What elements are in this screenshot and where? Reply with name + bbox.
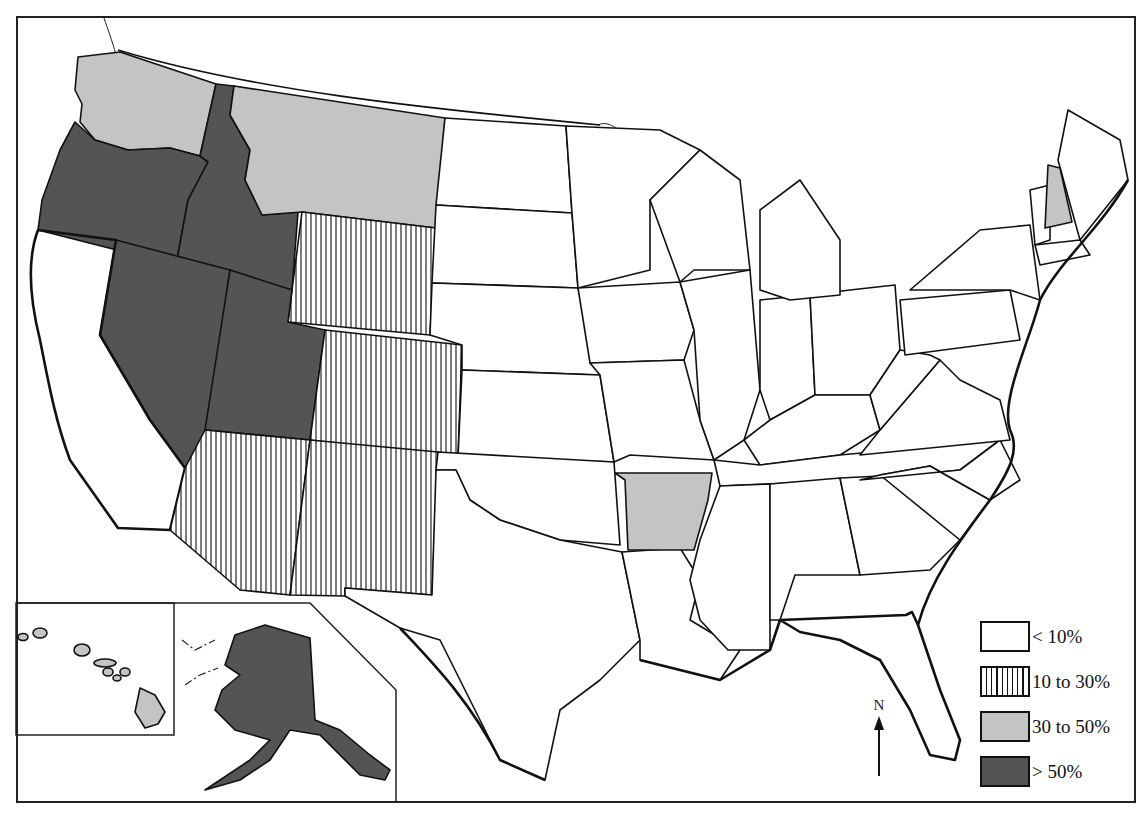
legend-item-gt50: > 50%: [980, 749, 1140, 794]
state-hawaii: [18, 628, 165, 728]
state-kansas: [458, 370, 614, 462]
state-arkansas: [615, 473, 712, 550]
north-label: N: [868, 697, 890, 714]
state-montana: [230, 86, 445, 228]
legend-item-10to30: 10 to 30%: [980, 659, 1140, 704]
legend-swatch-white: [980, 621, 1030, 652]
legend-label: 30 to 50%: [1032, 716, 1110, 738]
state-iowa: [578, 282, 694, 363]
north-arrow-icon: [868, 714, 890, 779]
legend-item-lt10: < 10%: [980, 614, 1140, 659]
state-michigan: [760, 180, 840, 300]
legend-label: 10 to 30%: [1032, 671, 1110, 693]
state-new-york: [910, 225, 1040, 300]
state-alaska: [205, 625, 390, 790]
state-south-dakota: [432, 205, 578, 288]
legend-swatch-hatched: [980, 666, 1030, 697]
map-legend: < 10% 10 to 30% 30 to 50% > 50%: [980, 614, 1140, 794]
legend-swatch-light-gray: [980, 711, 1030, 742]
state-wyoming: [288, 212, 436, 335]
state-pennsylvania: [900, 290, 1020, 355]
state-new-mexico: [290, 440, 438, 596]
state-colorado: [310, 330, 462, 457]
state-north-dakota: [436, 118, 572, 213]
legend-label: > 50%: [1032, 761, 1082, 783]
date-line: [182, 640, 218, 685]
north-arrow: N: [868, 697, 890, 783]
legend-swatch-dark-gray: [980, 756, 1030, 787]
legend-label: < 10%: [1032, 626, 1082, 648]
legend-item-30to50: 30 to 50%: [980, 704, 1140, 749]
alaska-inset-frame: [16, 603, 396, 803]
us-choropleth-map: [0, 0, 1141, 822]
